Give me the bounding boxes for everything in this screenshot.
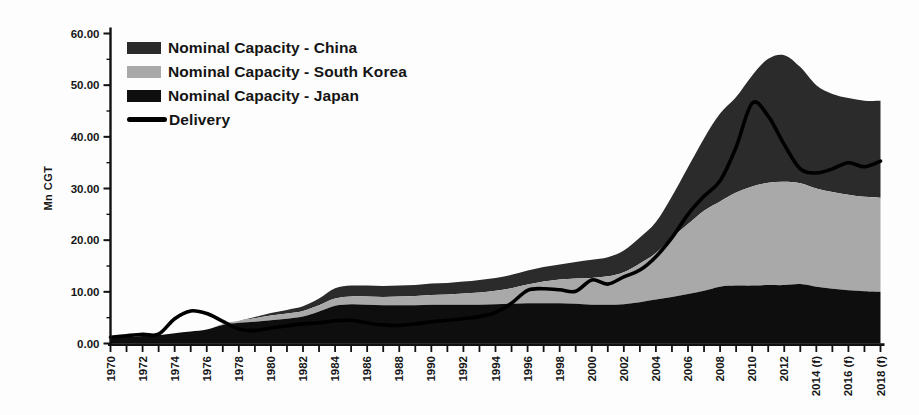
chart-legend: Nominal Capacity - China Nominal Capacit… <box>127 36 407 131</box>
x-tick-label: 2012 <box>778 356 790 382</box>
y-axis: 0.0010.0020.0030.0040.0050.0060.00Mn CGT <box>42 28 111 350</box>
x-tick-label: 1990 <box>425 356 437 382</box>
japan-area-swatch-icon <box>127 90 161 102</box>
y-tick-label: 60.00 <box>71 28 100 40</box>
x-tick-label: 1988 <box>393 355 405 381</box>
china-area-swatch-icon <box>127 42 161 54</box>
legend-item-japan: Nominal Capacity - Japan <box>127 84 407 107</box>
x-tick-label: 1986 <box>361 356 373 382</box>
x-tick-label: 1970 <box>105 356 117 382</box>
legend-item-delivery: Delivery <box>127 108 407 131</box>
y-tick-label: 20.00 <box>71 234 100 246</box>
x-tick-label: 1994 <box>490 355 502 381</box>
y-tick-label: 0.00 <box>77 338 99 350</box>
y-tick-label: 10.00 <box>71 286 100 298</box>
x-tick-label: 1980 <box>265 356 277 382</box>
x-tick-label: 2006 <box>682 356 694 382</box>
x-tick-label: 1976 <box>201 356 213 382</box>
x-tick-label: 2004 <box>650 355 662 381</box>
x-tick-label: 1984 <box>329 355 341 381</box>
legend-label-china: Nominal Capacity - China <box>168 39 357 57</box>
x-tick-label: 1974 <box>169 355 181 381</box>
legend-label-japan: Nominal Capacity - Japan <box>168 87 359 105</box>
legend-item-south-korea: Nominal Capacity - South Korea <box>127 60 407 83</box>
x-tick-label: 2018 (f) <box>875 356 887 396</box>
y-tick-label: 50.00 <box>71 79 100 91</box>
legend-item-china: Nominal Capacity - China <box>127 36 407 59</box>
x-tick-label: 2000 <box>586 356 598 382</box>
x-tick-label: 1982 <box>297 356 309 382</box>
x-tick-label: 1992 <box>457 356 469 382</box>
x-tick-label: 2016 (f) <box>842 356 854 396</box>
legend-label-delivery: Delivery <box>169 111 230 129</box>
x-tick-label: 2010 <box>746 356 758 382</box>
x-tick-label: 1996 <box>522 356 534 382</box>
y-axis-title: Mn CGT <box>42 165 54 210</box>
legend-label-south-korea: Nominal Capacity - South Korea <box>168 63 407 81</box>
x-tick-label: 2014 (f) <box>810 356 822 396</box>
x-tick-label: 1978 <box>233 355 245 381</box>
shipbuilding-capacity-chart: 0.0010.0020.0030.0040.0050.0060.00Mn CGT… <box>0 0 919 415</box>
y-tick-label: 40.00 <box>71 131 100 143</box>
x-axis: 1970197219741976197819801982198419861988… <box>105 345 887 397</box>
south-korea-area-swatch-icon <box>127 66 161 78</box>
x-tick-label: 2008 <box>714 355 726 381</box>
y-tick-label: 30.00 <box>71 183 100 195</box>
x-tick-label: 1972 <box>137 356 149 382</box>
delivery-line-swatch-icon <box>127 117 167 122</box>
x-tick-label: 1998 <box>554 355 566 381</box>
x-tick-label: 2002 <box>618 356 630 382</box>
